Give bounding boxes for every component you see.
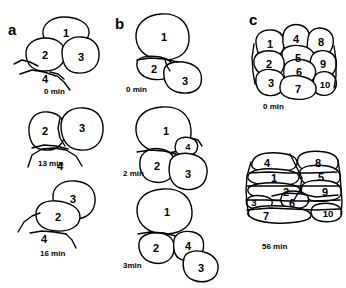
cell-number: 3	[198, 263, 204, 274]
cell-number: 4	[41, 234, 47, 245]
time-label: 16 min	[40, 250, 65, 258]
cell-number: 8	[315, 158, 321, 169]
cell-number: 9	[322, 187, 328, 198]
cell-number: 6	[289, 198, 295, 209]
cell-number: 2	[55, 212, 61, 223]
panel-a: a 1 2 3 4 0 min	[0, 0, 112, 288]
panel-a-frame-16min-outline	[0, 0, 112, 288]
cell-number: 4	[264, 158, 270, 169]
cell-number: 2	[153, 243, 159, 254]
figure-root: a 1 2 3 4 0 min	[0, 0, 346, 288]
time-label: 56 min	[262, 243, 287, 251]
panel-c-frame-56min-outline	[230, 0, 346, 288]
panel-b-frame-3min-outline	[112, 0, 230, 288]
cell-number: 4	[185, 241, 191, 252]
cell-number: 7	[263, 211, 269, 222]
cell-number: 3	[251, 198, 256, 208]
cell-number: 1	[164, 207, 170, 218]
panel-b: b 1 2 3 0 min	[112, 0, 230, 288]
time-label: 3min	[123, 262, 142, 270]
cell-number: 3	[70, 194, 76, 205]
panel-c: c 1 4 8	[230, 0, 346, 288]
cell-number: 5	[318, 172, 324, 183]
cell-number: 1	[271, 173, 277, 184]
cell-number: 10	[323, 209, 334, 219]
